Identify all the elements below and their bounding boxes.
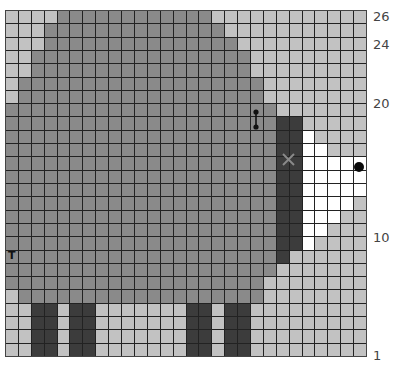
chart-cell-r8-c9 — [109, 251, 121, 263]
chart-cell-r20-c13 — [161, 91, 173, 103]
chart-cell-r25-c15 — [187, 24, 199, 36]
chart-cell-r4-c26 — [328, 304, 340, 316]
chart-cell-r7-c2 — [19, 264, 31, 276]
chart-cell-r9-c9 — [109, 237, 121, 249]
chart-cell-r12-c15 — [187, 197, 199, 209]
chart-cell-r25-c7 — [83, 24, 95, 36]
chart-cell-r19-c2 — [19, 104, 31, 116]
chart-cell-r16-c11 — [135, 144, 147, 156]
chart-cell-r26-c18 — [225, 11, 237, 23]
chart-cell-r11-c25 — [315, 211, 327, 223]
chart-cell-r2-c10 — [122, 330, 134, 342]
chart-cell-r16-c21 — [264, 144, 276, 156]
chart-cell-r19-c28 — [354, 104, 366, 116]
chart-cell-r22-c1 — [6, 64, 18, 76]
chart-cell-r4-c18 — [225, 304, 237, 316]
chart-cell-r11-c18 — [225, 211, 237, 223]
chart-cell-r21-c14 — [174, 78, 186, 90]
chart-cell-r12-c5 — [58, 197, 70, 209]
chart-cell-r4-c11 — [135, 304, 147, 316]
chart-cell-r10-c16 — [199, 224, 211, 236]
chart-cell-r3-c26 — [328, 317, 340, 329]
chart-cell-r14-c18 — [225, 171, 237, 183]
chart-cell-r1-c7 — [83, 344, 95, 356]
chart-cell-r14-c12 — [148, 171, 160, 183]
chart-cell-r11-c3 — [32, 211, 44, 223]
chart-cell-r2-c13 — [161, 330, 173, 342]
chart-cell-r16-c4 — [45, 144, 57, 156]
chart-cell-r11-c8 — [96, 211, 108, 223]
chart-cell-r16-c7 — [83, 144, 95, 156]
chart-cell-r8-c24 — [303, 251, 315, 263]
chart-cell-r3-c20 — [251, 317, 263, 329]
chart-cell-r5-c20 — [251, 290, 263, 302]
chart-cell-r8-c21 — [264, 251, 276, 263]
chart-cell-r22-c3 — [32, 64, 44, 76]
chart-cell-r3-c17 — [212, 317, 224, 329]
chart-cell-r10-c8 — [96, 224, 108, 236]
chart-cell-r19-c25 — [315, 104, 327, 116]
chart-cell-r15-c5 — [58, 157, 70, 169]
chart-cell-r12-c14 — [174, 197, 186, 209]
chart-cell-r18-c7 — [83, 117, 95, 129]
chart-cell-r1-c13 — [161, 344, 173, 356]
chart-cell-r2-c25 — [315, 330, 327, 342]
chart-cell-r24-c4 — [45, 38, 57, 50]
chart-cell-r25-c1 — [6, 24, 18, 36]
chart-cell-r7-c13 — [161, 264, 173, 276]
chart-cell-r19-c1 — [6, 104, 18, 116]
chart-cell-r14-c23 — [290, 171, 302, 183]
chart-cell-r23-c26 — [328, 51, 340, 63]
chart-cell-r23-c3 — [32, 51, 44, 63]
chart-cell-r25-c2 — [19, 24, 31, 36]
chart-cell-r16-c12 — [148, 144, 160, 156]
chart-cell-r1-c25 — [315, 344, 327, 356]
chart-cell-r12-c27 — [341, 197, 353, 209]
chart-cell-r8-c12 — [148, 251, 160, 263]
chart-cell-r15-c18 — [225, 157, 237, 169]
chart-cell-r8-c27 — [341, 251, 353, 263]
chart-cell-r6-c12 — [148, 277, 160, 289]
chart-cell-r24-c18 — [225, 38, 237, 50]
chart-cell-r22-c11 — [135, 64, 147, 76]
chart-cell-r14-c15 — [187, 171, 199, 183]
chart-cell-r20-c5 — [58, 91, 70, 103]
chart-cell-r20-c14 — [174, 91, 186, 103]
chart-cell-r6-c1 — [6, 277, 18, 289]
chart-cell-r7-c19 — [238, 264, 250, 276]
chart-cell-r26-c14 — [174, 11, 186, 23]
chart-cell-r19-c23 — [290, 104, 302, 116]
chart-cell-r19-c20 — [251, 104, 263, 116]
chart-cell-r19-c26 — [328, 104, 340, 116]
chart-cell-r18-c8 — [96, 117, 108, 129]
chart-cell-r15-c22 — [277, 157, 289, 169]
chart-cell-r20-c17 — [212, 91, 224, 103]
chart-cell-r8-c16 — [199, 251, 211, 263]
chart-cell-r25-c5 — [58, 24, 70, 36]
chart-cell-r16-c24 — [303, 144, 315, 156]
chart-cell-r13-c11 — [135, 184, 147, 196]
chart-cell-r19-c11 — [135, 104, 147, 116]
chart-cell-r20-c9 — [109, 91, 121, 103]
chart-cell-r2-c21 — [264, 330, 276, 342]
chart-cell-r20-c3 — [32, 91, 44, 103]
chart-cell-r17-c21 — [264, 131, 276, 143]
chart-cell-r5-c28 — [354, 290, 366, 302]
chart-cell-r9-c19 — [238, 237, 250, 249]
chart-cell-r18-c23 — [290, 117, 302, 129]
chart-cell-r14-c14 — [174, 171, 186, 183]
chart-cell-r11-c9 — [109, 211, 121, 223]
chart-cell-r20-c11 — [135, 91, 147, 103]
row-label-26: 26 — [373, 10, 390, 24]
chart-cell-r1-c5 — [58, 344, 70, 356]
chart-cell-r6-c27 — [341, 277, 353, 289]
chart-cell-r5-c23 — [290, 290, 302, 302]
chart-cell-r16-c23 — [290, 144, 302, 156]
chart-cell-r21-c1 — [6, 78, 18, 90]
chart-cell-r22-c20 — [251, 64, 263, 76]
chart-cell-r13-c16 — [199, 184, 211, 196]
chart-cell-r2-c3 — [32, 330, 44, 342]
chart-cell-r5-c10 — [122, 290, 134, 302]
chart-cell-r12-c4 — [45, 197, 57, 209]
chart-cell-r13-c2 — [19, 184, 31, 196]
